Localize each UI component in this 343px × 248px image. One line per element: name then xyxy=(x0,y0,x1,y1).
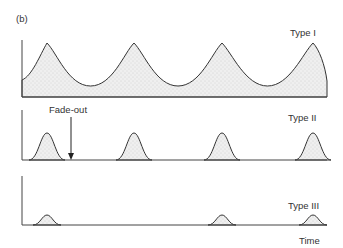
type-1-label: Type I xyxy=(290,27,316,38)
fade-out-arrow-icon xyxy=(68,117,74,160)
type-3-peak xyxy=(208,215,236,225)
diagram-canvas: (b) Type I Type II Fade-out Type III Tim… xyxy=(0,0,343,248)
panel-type-3: Type III Time xyxy=(22,176,327,246)
type-2-peak xyxy=(29,133,65,160)
type-2-peak xyxy=(116,133,152,160)
x-axis-label: Time xyxy=(299,235,320,246)
fade-out-label: Fade-out xyxy=(49,104,87,115)
panel-type-1: Type I xyxy=(22,27,327,97)
type-3-peak xyxy=(299,215,327,225)
type-3-label: Type III xyxy=(288,200,319,211)
panel-type-2: Type II Fade-out xyxy=(22,104,331,160)
type-2-peak xyxy=(295,133,331,160)
type-2-peak xyxy=(204,133,240,160)
type-3-peak xyxy=(33,215,61,225)
type-1-curve xyxy=(22,43,327,97)
panel-label: (b) xyxy=(16,13,28,24)
type-2-label: Type II xyxy=(288,112,317,123)
